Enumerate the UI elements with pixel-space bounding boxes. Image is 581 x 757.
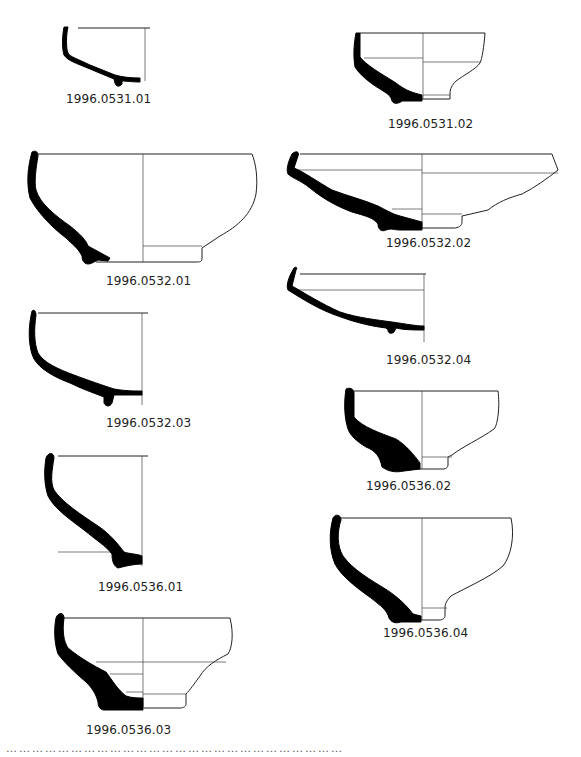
- profile-drawing: [40, 450, 200, 590]
- catalog-number-label: 1996.0532.03: [106, 416, 191, 430]
- sherd-drawing-0532-03: 1996.0532.03: [22, 305, 222, 435]
- catalog-number-label: 1996.0531.02: [388, 117, 473, 131]
- sherd-drawing-0536-01: 1996.0536.01: [40, 450, 200, 590]
- sherd-drawing-0536-02: 1996.0536.02: [340, 385, 510, 495]
- sherd-drawing-0532-04: 1996.0532.04: [282, 266, 482, 366]
- catalog-number-label: 1996.0536.04: [383, 626, 468, 640]
- profile-drawing: [20, 148, 270, 288]
- profile-drawing: [330, 25, 510, 115]
- profile-drawing: [282, 266, 482, 366]
- caption-fragment: ……………………………………………………………………: [0, 748, 581, 755]
- catalog-number-label: 1996.0532.02: [386, 236, 471, 250]
- profile-drawing: [50, 610, 250, 740]
- catalog-number-label: 1996.0536.01: [98, 580, 183, 594]
- sherd-drawing-0532-02: 1996.0532.02: [282, 148, 581, 258]
- profile-drawing: [325, 512, 525, 637]
- sherd-drawing-0531-01: 1996.0531.01: [60, 25, 160, 115]
- catalog-number-label: 1996.0531.01: [66, 92, 151, 106]
- sherd-drawing-0531-02: 1996.0531.02: [330, 25, 510, 115]
- sherd-drawing-0536-04: 1996.0536.04: [325, 512, 525, 637]
- catalog-number-label: 1996.0536.02: [366, 479, 451, 493]
- catalog-number-label: 1996.0532.01: [106, 274, 191, 288]
- catalog-number-label: 1996.0532.04: [386, 353, 471, 367]
- catalog-number-label: 1996.0536.03: [86, 723, 171, 737]
- sherd-drawing-0536-03: 1996.0536.03: [50, 610, 250, 740]
- sherd-drawing-0532-01: 1996.0532.01: [20, 148, 270, 288]
- cropped-caption-text: ……………………………………………………………………: [0, 748, 581, 757]
